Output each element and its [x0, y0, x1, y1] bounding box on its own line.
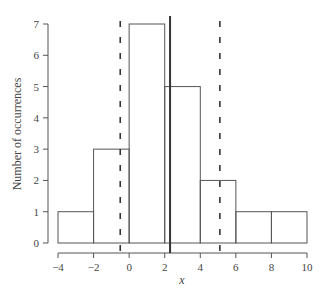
x-tick-label: 8: [269, 261, 275, 273]
y-tick-label: 6: [34, 49, 40, 61]
x-tick-label: −4: [52, 261, 64, 273]
reference-lines: [120, 16, 220, 253]
y-tick-label: 5: [34, 81, 40, 93]
y-tick-label: 2: [34, 174, 40, 186]
x-tick-label: −2: [88, 261, 100, 273]
y-tick-label: 4: [34, 112, 40, 124]
histogram-bar: [94, 149, 130, 243]
histogram-bar: [58, 212, 94, 243]
y-tick-label: 1: [34, 206, 40, 218]
x-tick-label: 6: [233, 261, 239, 273]
y-tick-label: 7: [34, 18, 40, 30]
x-tick-label: 4: [198, 261, 204, 273]
x-tick-label: 2: [162, 261, 168, 273]
histogram-bar: [271, 212, 307, 243]
histogram-bars: [58, 24, 307, 243]
histogram-bar: [129, 24, 165, 243]
x-tick-label: 0: [126, 261, 132, 273]
x-tick-label: 10: [302, 261, 314, 273]
x-axis: −4−20246810: [52, 253, 313, 273]
y-tick-label: 0: [34, 237, 40, 249]
x-axis-label: x: [178, 273, 185, 287]
histogram-chart: 01234567 −4−20246810 x Number of occurre…: [0, 0, 326, 299]
y-axis: 01234567: [34, 18, 49, 249]
histogram-bar: [200, 180, 236, 243]
histogram-bar: [236, 212, 272, 243]
y-tick-label: 3: [34, 143, 40, 155]
y-axis-label: Number of occurrences: [10, 77, 24, 190]
